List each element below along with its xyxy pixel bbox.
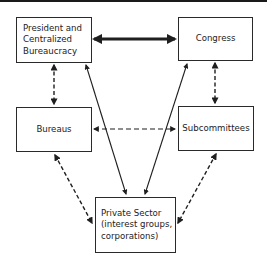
node-subcommittees: Subcommittees	[178, 106, 254, 151]
node-bureaus-label: Bureaus	[36, 124, 71, 136]
node-private-sector: Private Sector (interest groups, corpora…	[95, 197, 176, 253]
node-private-sector-label: Private Sector (interest groups, corpora…	[101, 208, 172, 243]
node-bureaus: Bureaus	[16, 107, 92, 152]
edge-bureaus-private	[55, 155, 92, 223]
node-congress: Congress	[178, 17, 253, 61]
node-subcommittees-label: Subcommittees	[182, 123, 249, 135]
node-congress-label: Congress	[196, 33, 236, 45]
node-president-label: President and Centralized Bureaucracy	[23, 23, 82, 58]
node-president: President and Centralized Bureaucracy	[16, 17, 92, 63]
edge-subcommittees-private	[178, 154, 216, 223]
